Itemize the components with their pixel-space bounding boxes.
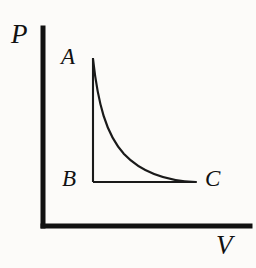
pv-diagram-canvas	[0, 0, 256, 268]
point-label-b: B	[62, 167, 76, 190]
point-label-c: C	[205, 167, 220, 190]
isotherm-curve-a-to-c	[93, 59, 196, 182]
pressure-axis-label: P	[11, 21, 28, 48]
pv-diagram-figure: P V A B C	[0, 0, 256, 268]
volume-axis-label: V	[216, 232, 233, 259]
point-label-a: A	[61, 45, 75, 68]
